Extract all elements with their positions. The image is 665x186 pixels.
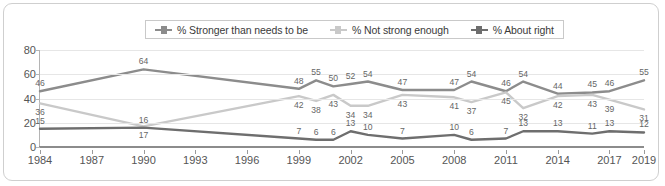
data-label: 55 [311,67,321,77]
line-marker-icon [155,25,172,34]
data-label: 64 [139,56,149,66]
data-label: 54 [518,69,528,79]
y-axis-tick [36,50,40,51]
x-axis-tick-label: 1990 [131,154,155,166]
x-axis-tick-label: 1993 [183,154,207,166]
x-axis-tick-label: 1987 [80,154,104,166]
data-label: 6 [469,127,474,137]
x-axis-tick-label: 2005 [390,154,414,166]
data-label: 11 [588,121,597,131]
legend-item-2[interactable]: % About right [471,24,554,36]
legend-label: % About right [493,24,554,36]
gridline [40,50,644,51]
data-label: 46 [35,78,45,88]
data-label: 13 [553,118,563,128]
chart-legend: % Stronger than needs to be% Not strong … [145,20,564,39]
data-label: 47 [398,77,408,87]
data-label: 13 [518,118,528,128]
y-axis-tick-label: 20 [24,117,36,129]
data-label: 37 [467,106,477,116]
data-label: 43 [587,99,597,109]
y-axis-tick-label: 80 [24,44,36,56]
data-label: 6 [314,127,319,137]
x-axis-tick-label: 2008 [442,154,466,166]
y-axis-tick-label: 40 [24,93,36,105]
data-label: 45 [501,96,511,106]
data-label: 43 [329,99,339,109]
data-label: 48 [294,76,304,86]
data-label: 41 [449,101,459,111]
line-marker-icon [330,25,347,34]
x-axis-tick-label: 2002 [338,154,362,166]
data-label: 42 [294,100,304,110]
legend-item-1[interactable]: % Not strong enough [330,24,449,36]
data-label: 34 [363,110,373,120]
x-axis-tick-label: 2011 [494,154,518,166]
y-axis-tick [36,74,40,75]
legend-label: % Not strong enough [352,24,449,36]
data-label: 7 [296,126,301,136]
line-marker-icon [471,25,488,34]
data-label: 55 [639,67,649,77]
data-label: 38 [311,105,321,115]
x-axis-tick-label: 2019 [632,154,656,166]
data-label: 17 [139,130,149,140]
data-label: 10 [363,122,373,132]
data-label: 50 [329,73,339,83]
data-label: 45 [587,79,597,89]
y-axis-tick-label: 60 [24,68,36,80]
plot-area: 0204060801984198719901993199619992002200… [40,50,644,147]
data-label: 43 [398,99,408,109]
gridline [40,74,644,75]
legend-item-0[interactable]: % Stronger than needs to be [155,24,308,36]
x-axis-tick-label: 1999 [287,154,311,166]
data-label: 39 [605,104,615,114]
data-label: 46 [605,78,615,88]
x-axis-tick-label: 1984 [28,154,52,166]
data-label: 10 [449,122,459,132]
series-line-2 [40,128,644,140]
data-label: 47 [449,77,459,87]
data-label: 6 [331,127,336,137]
data-label: 16 [139,115,149,125]
data-label: 46 [501,78,511,88]
legend-label: % Stronger than needs to be [177,24,308,36]
data-label: 7 [504,126,509,136]
x-axis-tick-label: 1996 [235,154,259,166]
data-label: 42 [553,100,563,110]
y-axis-tick [36,147,40,148]
x-axis-tick-label: 2017 [597,154,621,166]
y-axis-tick [36,99,40,100]
data-label: 54 [363,69,373,79]
data-label: 52 [346,71,356,81]
data-label: 12 [639,119,649,129]
data-label: 44 [553,81,563,91]
x-axis-tick-label: 2014 [545,154,569,166]
data-label: 7 [400,126,405,136]
data-label: 13 [346,118,356,128]
data-label: 15 [35,116,45,126]
data-label: 13 [605,118,615,128]
chart-panel: % Stronger than needs to be% Not strong … [3,3,659,181]
data-label: 54 [467,69,477,79]
